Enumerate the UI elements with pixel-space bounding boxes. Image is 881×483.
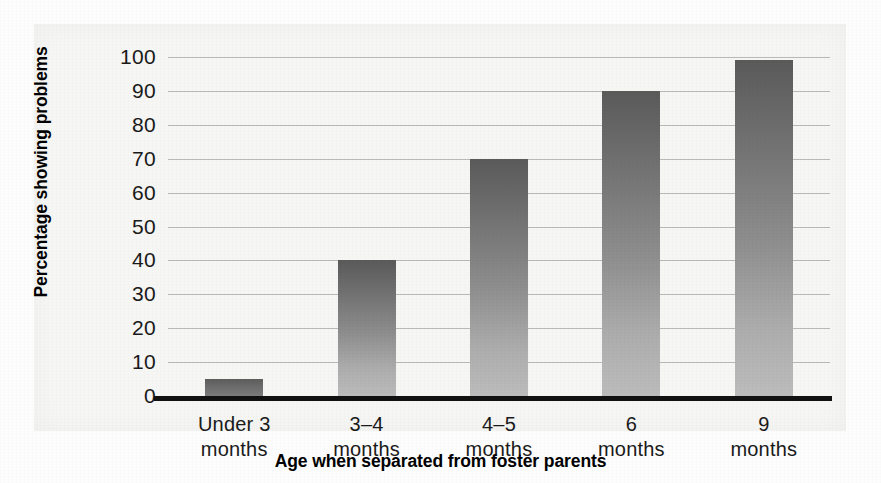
y-axis-tick-label: 10 <box>132 350 156 374</box>
y-axis-tick-label: 70 <box>132 147 156 171</box>
plot-area: 1009080706050403020100 Under 3months3–4m… <box>168 40 830 396</box>
y-axis-tick-label: 50 <box>132 215 156 239</box>
x-axis-tick-label-line: 6 <box>556 412 706 437</box>
y-axis-tick-label: 80 <box>132 113 156 137</box>
gridline-100 <box>168 57 830 58</box>
y-axis-tick-label: 100 <box>120 45 156 69</box>
x-axis-title: Age when separated from foster parents <box>0 451 881 472</box>
y-axis-tick-label: 40 <box>132 248 156 272</box>
x-axis-line <box>154 396 832 401</box>
x-axis-tick-label-line: 9 <box>689 412 839 437</box>
x-axis-tick-label-line: 4–5 <box>424 412 574 437</box>
bar-3 <box>470 159 528 396</box>
y-axis-title: Percentage showing problems <box>31 68 52 298</box>
bar-2 <box>338 260 396 396</box>
x-axis-tick-label-line: 3–4 <box>292 412 442 437</box>
y-axis-tick-label: 30 <box>132 282 156 306</box>
y-axis-tick-label: 60 <box>132 181 156 205</box>
bar-4 <box>602 91 660 396</box>
bar-5 <box>735 60 793 396</box>
gridline-80 <box>168 125 830 126</box>
y-axis-tick-label: 20 <box>132 316 156 340</box>
chart-figure: Percentage showing problems 100908070605… <box>0 0 881 483</box>
gridline-90 <box>168 91 830 92</box>
x-axis-tick-label-line: Under 3 <box>159 412 309 437</box>
bar-1 <box>205 379 263 396</box>
y-axis-tick-label: 90 <box>132 79 156 103</box>
